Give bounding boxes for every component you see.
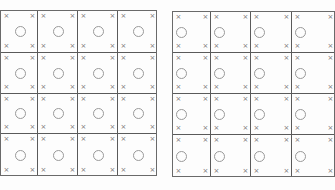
cross-marker-icon: × bbox=[120, 124, 127, 131]
circle-marker-icon bbox=[15, 68, 26, 79]
cross-marker-icon: × bbox=[29, 124, 36, 131]
cross-marker-icon: × bbox=[149, 167, 156, 174]
cross-marker-icon: × bbox=[175, 55, 182, 62]
cross-marker-icon: × bbox=[120, 167, 127, 174]
cross-marker-icon: × bbox=[283, 14, 290, 21]
circle-marker-icon bbox=[53, 108, 64, 119]
cross-marker-icon: × bbox=[253, 14, 260, 21]
circle-marker-icon bbox=[295, 109, 306, 120]
cross-marker-icon: × bbox=[175, 84, 182, 91]
grid-cell: ×××× bbox=[78, 11, 118, 53]
cross-marker-icon: × bbox=[80, 167, 87, 174]
cross-marker-icon: × bbox=[29, 55, 36, 62]
cross-marker-icon: × bbox=[242, 43, 249, 50]
cross-marker-icon: × bbox=[69, 96, 76, 103]
circle-marker-icon bbox=[214, 151, 225, 162]
cross-marker-icon: × bbox=[149, 84, 156, 91]
cross-marker-icon: × bbox=[202, 43, 209, 50]
circle-marker-icon bbox=[176, 68, 187, 79]
cross-marker-icon: × bbox=[294, 96, 301, 103]
grid-cell: ×××× bbox=[38, 11, 78, 53]
grid-cell: ×××× bbox=[211, 53, 251, 94]
cross-marker-icon: × bbox=[253, 168, 260, 175]
cross-marker-icon: × bbox=[109, 167, 116, 174]
cross-marker-icon: × bbox=[109, 124, 116, 131]
grid-cell: ×××× bbox=[292, 94, 335, 135]
right-grid: ××××××××××××××××××××××××××××××××××××××××… bbox=[172, 11, 335, 177]
grid-cell: ×××× bbox=[211, 94, 251, 135]
circle-marker-icon bbox=[214, 68, 225, 79]
circle-marker-icon bbox=[133, 108, 144, 119]
grid-cell: ×××× bbox=[1, 11, 38, 53]
cross-marker-icon: × bbox=[3, 55, 10, 62]
grid-cell: ×××× bbox=[1, 53, 38, 94]
circle-marker-icon bbox=[53, 68, 64, 79]
circle-marker-icon bbox=[15, 150, 26, 161]
circle-marker-icon bbox=[176, 151, 187, 162]
grid-cell: ×××× bbox=[78, 94, 118, 134]
circle-marker-icon bbox=[254, 27, 265, 38]
cross-marker-icon: × bbox=[40, 43, 47, 50]
cross-marker-icon: × bbox=[80, 124, 87, 131]
cross-marker-icon: × bbox=[202, 84, 209, 91]
cross-marker-icon: × bbox=[327, 84, 334, 91]
cross-marker-icon: × bbox=[175, 43, 182, 50]
cross-marker-icon: × bbox=[283, 125, 290, 132]
grid-cell: ×××× bbox=[211, 135, 251, 178]
grid-cell: ×××× bbox=[38, 134, 78, 177]
grid-cell: ×××× bbox=[292, 53, 335, 94]
cross-marker-icon: × bbox=[40, 124, 47, 131]
grid-cell: ×××× bbox=[173, 94, 211, 135]
cross-marker-icon: × bbox=[109, 84, 116, 91]
grid-cell: ×××× bbox=[251, 94, 292, 135]
cross-marker-icon: × bbox=[69, 43, 76, 50]
grid-cell: ×××× bbox=[38, 94, 78, 134]
cross-marker-icon: × bbox=[242, 84, 249, 91]
cross-marker-icon: × bbox=[294, 14, 301, 21]
cross-marker-icon: × bbox=[80, 13, 87, 20]
cross-marker-icon: × bbox=[213, 14, 220, 21]
circle-marker-icon bbox=[295, 151, 306, 162]
cross-marker-icon: × bbox=[253, 96, 260, 103]
circle-marker-icon bbox=[254, 109, 265, 120]
cross-marker-icon: × bbox=[294, 55, 301, 62]
cross-marker-icon: × bbox=[253, 137, 260, 144]
cross-marker-icon: × bbox=[283, 84, 290, 91]
circle-marker-icon bbox=[15, 108, 26, 119]
cross-marker-icon: × bbox=[40, 167, 47, 174]
circle-marker-icon bbox=[53, 26, 64, 37]
cross-marker-icon: × bbox=[283, 55, 290, 62]
cross-marker-icon: × bbox=[109, 43, 116, 50]
cross-marker-icon: × bbox=[120, 43, 127, 50]
cross-marker-icon: × bbox=[202, 137, 209, 144]
cross-marker-icon: × bbox=[3, 136, 10, 143]
cross-marker-icon: × bbox=[242, 14, 249, 21]
circle-marker-icon bbox=[133, 26, 144, 37]
cross-marker-icon: × bbox=[149, 124, 156, 131]
cross-marker-icon: × bbox=[294, 43, 301, 50]
left-grid: ××××××××××××××××××××××××××××××××××××××××… bbox=[0, 10, 157, 176]
grid-cell: ×××× bbox=[118, 11, 158, 53]
grid-cell: ×××× bbox=[173, 53, 211, 94]
cross-marker-icon: × bbox=[202, 55, 209, 62]
circle-marker-icon bbox=[254, 68, 265, 79]
cross-marker-icon: × bbox=[327, 43, 334, 50]
cross-marker-icon: × bbox=[149, 136, 156, 143]
cross-marker-icon: × bbox=[29, 13, 36, 20]
cross-marker-icon: × bbox=[69, 55, 76, 62]
cross-marker-icon: × bbox=[283, 43, 290, 50]
circle-marker-icon bbox=[176, 27, 187, 38]
cross-marker-icon: × bbox=[283, 137, 290, 144]
cross-marker-icon: × bbox=[213, 84, 220, 91]
cross-marker-icon: × bbox=[242, 96, 249, 103]
cross-marker-icon: × bbox=[327, 96, 334, 103]
cross-marker-icon: × bbox=[29, 167, 36, 174]
cross-marker-icon: × bbox=[294, 125, 301, 132]
grid-cell: ×××× bbox=[251, 53, 292, 94]
cross-marker-icon: × bbox=[202, 125, 209, 132]
cross-marker-icon: × bbox=[3, 13, 10, 20]
cross-marker-icon: × bbox=[327, 125, 334, 132]
cross-marker-icon: × bbox=[40, 13, 47, 20]
cross-marker-icon: × bbox=[213, 43, 220, 50]
cross-marker-icon: × bbox=[294, 168, 301, 175]
